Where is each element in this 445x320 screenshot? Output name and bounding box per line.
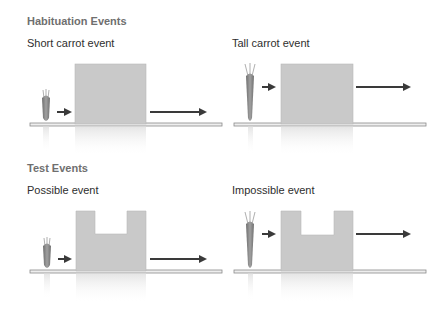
diagram-canvas	[0, 0, 445, 320]
notched-occluder-box	[281, 211, 353, 271]
notched-occluder-box	[76, 211, 146, 271]
occluder-box	[75, 64, 146, 124]
reflection-carrot	[248, 273, 253, 301]
reflection-carrot	[43, 126, 49, 152]
short-carrot-icon	[42, 89, 50, 121]
reflection-carrot	[44, 273, 50, 299]
tall-carrot-icon	[245, 63, 255, 121]
panel-short-carrot-event	[30, 64, 222, 156]
panel-tall-carrot-event	[234, 63, 426, 156]
reflection	[281, 273, 353, 303]
panel-possible-event	[30, 211, 222, 303]
reflection	[281, 126, 353, 156]
occluder-box	[281, 64, 353, 124]
reflection	[75, 126, 146, 156]
reflection	[76, 273, 146, 303]
tall-carrot-icon	[245, 211, 255, 268]
reflection-carrot	[248, 126, 253, 154]
short-carrot-icon	[43, 237, 51, 268]
panel-impossible-event	[234, 211, 426, 303]
